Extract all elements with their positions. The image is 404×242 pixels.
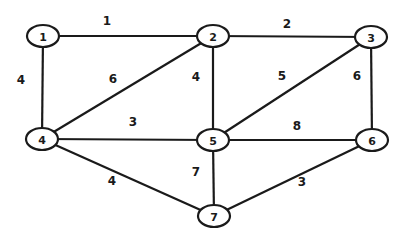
node-label: 4 (38, 134, 46, 147)
edge-weight-1-4: 4 (17, 73, 25, 87)
node-5: 5 (197, 129, 229, 151)
nodes: 1234567 (26, 25, 388, 227)
node-4: 4 (26, 128, 58, 150)
edge-weight-4-7: 4 (108, 174, 116, 188)
node-label: 7 (210, 211, 218, 224)
edge-weight-2-3: 2 (283, 17, 291, 31)
edge-weight-3-5: 5 (278, 69, 286, 83)
edge-weight-2-4: 6 (109, 72, 117, 86)
edges (42, 36, 372, 216)
node-6: 6 (356, 129, 388, 151)
edge-weight-6-7: 3 (298, 175, 306, 189)
edge-2-4 (42, 36, 213, 139)
node-label: 6 (368, 135, 376, 148)
weighted-graph-diagram: 124645638473 1234567 (0, 0, 404, 242)
edge-weight-labels: 124645638473 (17, 14, 361, 189)
edge-3-6 (371, 37, 372, 140)
edge-4-7 (42, 139, 214, 216)
edge-weight-4-5: 3 (129, 115, 137, 129)
edge-2-3 (213, 36, 371, 37)
edge-weight-5-6: 8 (293, 119, 301, 133)
edge-weight-2-5: 4 (192, 70, 200, 84)
node-label: 3 (367, 32, 375, 45)
node-label: 2 (209, 31, 217, 44)
node-2: 2 (197, 25, 229, 47)
node-label: 1 (39, 31, 47, 44)
edge-weight-5-7: 7 (192, 165, 200, 179)
edge-6-7 (214, 140, 372, 216)
edge-4-5 (42, 139, 213, 140)
edge-weight-3-6: 6 (353, 69, 361, 83)
edge-weight-1-2: 1 (103, 14, 111, 28)
node-label: 5 (209, 135, 217, 148)
node-7: 7 (198, 205, 230, 227)
node-3: 3 (355, 26, 387, 48)
node-1: 1 (27, 25, 59, 47)
edge-1-4 (42, 36, 43, 139)
